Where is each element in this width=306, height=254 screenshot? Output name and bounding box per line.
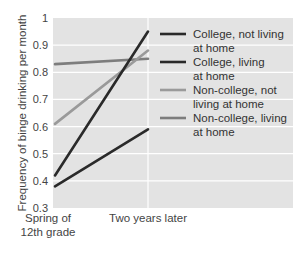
legend-label: at home [193,70,235,82]
legend-label: living at home [193,98,264,110]
line-chart: 0.30.40.50.60.70.80.91 Frequency of bing… [0,0,306,254]
x-tick-label: 12th grade [21,226,76,238]
x-axis-ticks: Spring of12th gradeTwo years later [21,212,188,238]
y-tick-label: 0.7 [33,93,48,105]
legend-label: College, not living [193,28,284,40]
y-tick-label: 0.8 [33,66,48,78]
y-axis-label: Frequency of binge drinking per month [16,15,28,212]
legend-label: at home [193,126,235,138]
y-tick-label: 0.4 [33,175,48,187]
y-tick-label: 1 [42,12,48,24]
y-tick-label: 0.9 [33,39,48,51]
y-tick-label: 0.6 [33,121,48,133]
legend-label: Non-college, living [193,112,287,124]
x-tick-label: Spring of [25,212,72,224]
x-tick-label: Two years later [109,212,187,224]
legend-label: at home [193,42,235,54]
legend-label: Non-college, not [193,84,278,96]
y-tick-label: 0.5 [33,148,48,160]
legend-label: College, living [193,56,265,68]
y-axis-ticks: 0.30.40.50.60.70.80.91 [33,12,48,214]
